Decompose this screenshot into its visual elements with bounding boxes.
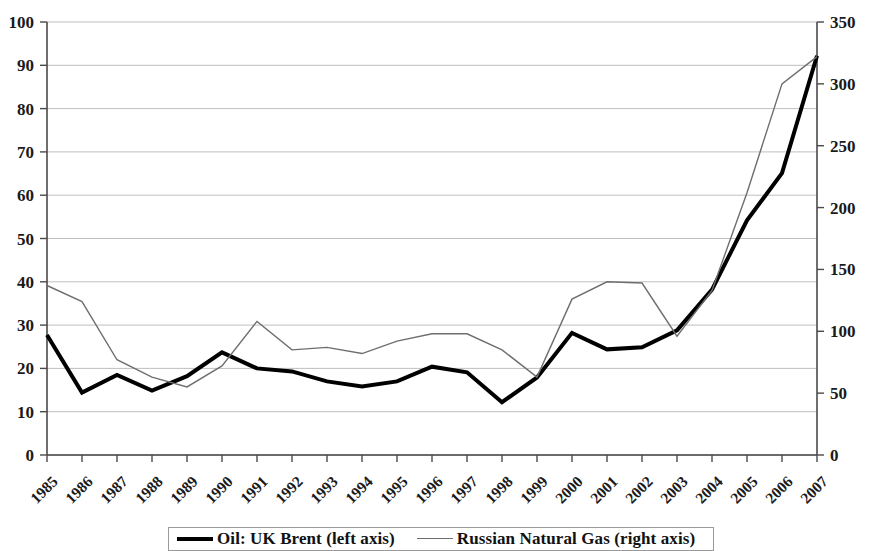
legend-label-oil: Oil: UK Brent (left axis) [217,529,395,549]
legend-entry-gas: Russian Natural Gas (right axis) [417,529,695,549]
left-axis-tick-label: 70 [0,143,34,160]
left-axis-tick-label: 0 [0,447,34,464]
chart-legend: Oil: UK Brent (left axis) Russian Natura… [168,527,714,551]
legend-swatch-oil-line [177,537,213,541]
chart-container: 0102030405060708090100 05010015020025030… [0,0,871,551]
legend-label-gas: Russian Natural Gas (right axis) [457,529,695,549]
series-line-russian-natural-gas [47,57,817,387]
left-axis-tick-label: 90 [0,57,34,74]
right-axis-tick-label: 250 [830,137,856,154]
left-axis-tick-label: 20 [0,360,34,377]
right-axis-tick-label: 200 [830,199,856,216]
right-axis-tick-label: 150 [830,261,856,278]
right-axis-ticks-group [817,22,824,455]
left-axis-ticks-group [40,22,47,455]
right-axis-tick-label: 50 [830,385,847,402]
left-axis-tick-label: 50 [0,230,34,247]
right-axis-tick-label: 300 [830,75,856,92]
left-axis-tick-label: 100 [0,14,34,31]
x-axis-ticks-group [47,455,817,462]
left-axis-tick-label: 80 [0,100,34,117]
chart-plot-area [0,0,871,551]
right-axis-tick-label: 350 [830,14,856,31]
left-axis-tick-label: 40 [0,273,34,290]
left-axis-tick-label: 30 [0,317,34,334]
legend-entry-oil: Oil: UK Brent (left axis) [177,529,395,549]
data-series-group [47,56,817,402]
gridlines-group [47,22,817,455]
right-axis-tick-label: 100 [830,323,856,340]
series-line-oil [47,56,817,402]
legend-swatch-gas-line [417,538,453,539]
left-axis-tick-label: 60 [0,187,34,204]
right-axis-tick-label: 0 [830,447,839,464]
left-axis-tick-label: 10 [0,403,34,420]
